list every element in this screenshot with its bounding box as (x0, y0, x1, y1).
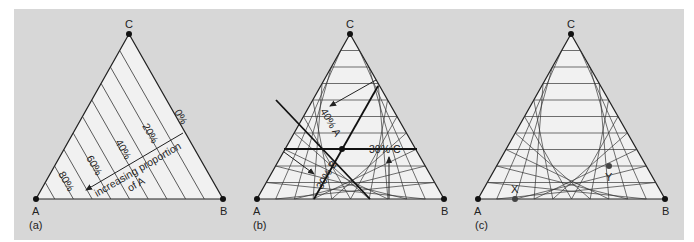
panel-a: A B C (a) 0% 20% 40% 60% 80% increasing … (29, 18, 227, 231)
point-y (606, 163, 612, 169)
vertex-b-dot (662, 196, 668, 202)
vertex-c-dot (126, 31, 132, 37)
vertex-c-dot (347, 31, 353, 37)
panel-c: X Y A B C (c) (474, 18, 669, 231)
vertex-a-dot (33, 196, 39, 202)
vertex-label-a: A (474, 205, 482, 217)
vertex-b-dot (441, 196, 447, 202)
ternary-diagrams: A B C (a) 0% 20% 40% 60% 80% increasing … (0, 0, 694, 242)
vertex-label-b: B (220, 205, 227, 217)
vertex-c-dot (568, 31, 574, 37)
vertex-a-dot (475, 196, 481, 202)
panel-caption-a: (a) (29, 219, 42, 231)
point-y-label: Y (605, 171, 613, 183)
vertex-b-dot (220, 196, 226, 202)
panel-b: A B C (b) 40% A 30% B 30% C (253, 18, 448, 231)
point-x-label: X (511, 183, 519, 195)
composition-point (339, 146, 345, 152)
vertex-label-c: C (567, 18, 575, 30)
vertex-label-b: B (441, 205, 448, 217)
vertex-label-c: C (346, 18, 354, 30)
vertex-a-dot (254, 196, 260, 202)
vertex-label-a: A (32, 205, 40, 217)
label-30-c: 30% C (369, 143, 401, 155)
point-x (512, 196, 518, 202)
panel-caption-b: (b) (253, 219, 266, 231)
vertex-label-a: A (253, 205, 261, 217)
vertex-label-c: C (125, 18, 133, 30)
vertex-label-b: B (662, 205, 669, 217)
panel-caption-c: (c) (475, 219, 488, 231)
